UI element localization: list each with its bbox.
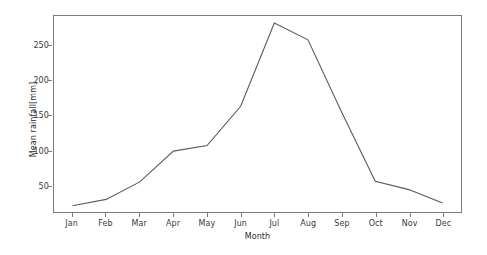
- x-axis-tick-mark: [241, 213, 242, 217]
- x-axis-tick-label: May: [198, 219, 215, 228]
- x-axis-tick-mark: [207, 213, 208, 217]
- line-chart-canvas: [54, 16, 461, 212]
- x-axis-label: Month: [53, 232, 462, 241]
- rainfall-line-series: [72, 23, 442, 206]
- x-axis-tick-label: Jan: [65, 219, 78, 228]
- y-axis-tick-mark: [48, 115, 52, 116]
- y-axis-tick-label: 100: [33, 146, 49, 155]
- chart-figure: Mean rainfall[mm] 50100150200250 JanFebM…: [0, 0, 487, 255]
- y-axis-tick-mark: [48, 186, 52, 187]
- y-axis-tick-label: 200: [33, 76, 49, 85]
- y-axis-tick-mark: [48, 151, 52, 152]
- x-axis-tick-label: Feb: [98, 219, 112, 228]
- x-axis-tick-label: Jun: [234, 219, 247, 228]
- x-axis-tick-label: Nov: [402, 219, 418, 228]
- x-axis-tick-marks: [53, 213, 462, 218]
- plot-area: [53, 15, 462, 213]
- x-axis-tick-label: Jul: [269, 219, 279, 228]
- y-axis-tick-labels: 50100150200250: [27, 0, 49, 255]
- x-axis-tick-label: Mar: [131, 219, 146, 228]
- y-axis-tick-label: 150: [33, 111, 49, 120]
- x-axis-tick-mark: [173, 213, 174, 217]
- x-axis-tick-mark: [72, 213, 73, 217]
- x-axis-tick-mark: [342, 213, 343, 217]
- y-axis-tick-mark: [48, 80, 52, 81]
- x-axis-tick-mark: [105, 213, 106, 217]
- y-axis-tick-mark: [48, 45, 52, 46]
- x-axis-tick-label: Oct: [369, 219, 383, 228]
- x-axis-tick-mark: [308, 213, 309, 217]
- x-axis-tick-labels: JanFebMarAprMayJunJulAugSepOctNovDec: [53, 219, 462, 233]
- y-axis-tick-label: 250: [33, 40, 49, 49]
- x-axis-tick-label: Dec: [436, 219, 452, 228]
- x-axis-tick-label: Apr: [166, 219, 180, 228]
- x-axis-tick-mark: [274, 213, 275, 217]
- x-axis-tick-mark: [376, 213, 377, 217]
- x-axis-tick-label: Aug: [300, 219, 316, 228]
- x-axis-tick-label: Sep: [334, 219, 349, 228]
- x-axis-tick-mark: [410, 213, 411, 217]
- x-axis-tick-mark: [139, 213, 140, 217]
- x-axis-tick-mark: [443, 213, 444, 217]
